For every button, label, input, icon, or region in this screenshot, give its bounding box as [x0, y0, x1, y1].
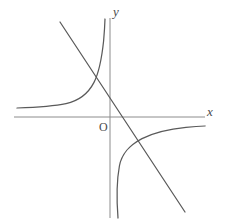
x-axis-label: x: [206, 104, 213, 119]
hyperbola-upper-left-branch: [17, 19, 105, 108]
y-axis-label: y: [111, 4, 119, 19]
origin-label: O: [99, 120, 108, 134]
coordinate-plane-svg: y x O: [0, 0, 225, 222]
math-figure: y x O: [0, 0, 225, 222]
hyperbola-lower-right-branch: [117, 126, 205, 218]
